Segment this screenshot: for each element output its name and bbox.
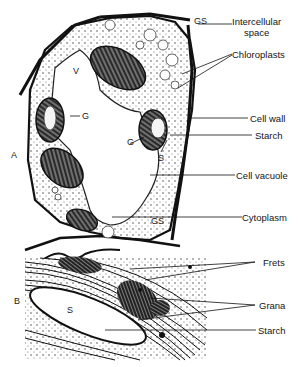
label-grana: Grana	[259, 300, 285, 311]
granum-tag-right: G	[127, 137, 134, 147]
label-starch-b: Starch	[258, 325, 285, 336]
panel-a-cell-drawing	[20, 14, 195, 262]
label-chloroplasts: Chloroplasts	[232, 49, 285, 60]
panel-b-letter: B	[14, 296, 20, 306]
label-starch-a: Starch	[255, 130, 282, 141]
granum-tag-left: G	[82, 111, 89, 121]
gs-tag-top: GS	[194, 16, 207, 26]
label-intercellular-line2: space	[232, 27, 281, 38]
label-cytoplasm: Cytoplasm	[242, 212, 287, 223]
label-cell-wall: Cell wall	[250, 113, 285, 124]
panel-a-letter: A	[11, 150, 17, 160]
panel-b-chloroplast-drawing	[24, 254, 207, 360]
starch-tag-a: S	[158, 153, 164, 163]
label-cell-vacuole: Cell vacuole	[236, 170, 288, 181]
label-intercellular-space: Intercellular space	[232, 16, 281, 38]
starch-tag-b: S	[67, 305, 73, 315]
label-intercellular-line1: Intercellular	[232, 16, 281, 27]
label-frets: Frets	[263, 257, 285, 268]
gs-tag-bottom: GS	[151, 216, 164, 226]
vacuole-tag: V	[73, 66, 79, 76]
